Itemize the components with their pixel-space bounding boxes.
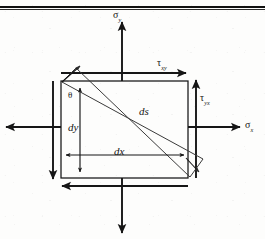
stress-diagram-canvas <box>0 0 265 239</box>
dy-label: dy <box>68 122 78 133</box>
ds-normal-arrow-upper <box>62 66 80 82</box>
theta-angle-label: θ <box>68 91 72 100</box>
tau-xy-label: τxy <box>157 58 167 70</box>
sigma-y-label: σy <box>113 10 121 22</box>
tau-yx-label: τyx <box>200 93 210 105</box>
ds-label: ds <box>139 106 149 117</box>
ds-plane-edge-upper <box>76 68 190 177</box>
dx-label: dx <box>114 146 124 157</box>
stress-element-figure: σy σx τxy τyx ds dy dx θ <box>0 0 265 239</box>
sigma-x-label: σx <box>245 120 253 132</box>
ds-plane-edge-lower <box>62 82 203 159</box>
